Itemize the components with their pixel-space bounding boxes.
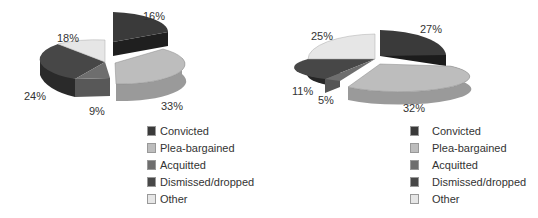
swatch-convicted [410,126,419,136]
swatch-acquitted [147,160,156,170]
legend-label: Plea-bargained [432,142,507,154]
label-left-other: 18% [57,32,79,44]
label-left-convicted: 16% [143,10,165,22]
label-right-dismissed: 11% [292,85,313,97]
swatch-plea-bargained [147,143,156,153]
pie-chart-left: 16% 33% 9% 24% 18% [24,10,186,117]
label-left-plea-bargained: 33% [161,100,183,112]
swatch-acquitted [410,160,419,170]
legend-label: Convicted [160,125,209,137]
swatch-dismissed [410,177,419,187]
legend-item-plea-bargained: Plea-bargained [147,139,254,156]
legend-item-acquitted: Acquitted [410,156,526,173]
label-left-dismissed: 24% [24,90,46,102]
label-right-acquitted: 5% [318,94,334,106]
legend-label: Convicted [432,125,481,137]
label-right-other: 25% [311,30,333,42]
legend-item-acquitted: Acquitted [147,156,254,173]
swatch-dismissed [147,177,156,187]
legend-item-convicted: Convicted [410,122,526,139]
legend-label: Acquitted [160,159,206,171]
label-right-plea-bargained: 32% [403,102,425,114]
pie-chart-right: 27% 32% 5% 11% 25% [292,23,471,114]
legend-item-dismissed: Dismissed/dropped [410,173,526,190]
legend-label: Acquitted [432,159,478,171]
label-right-convicted: 27% [420,23,442,35]
swatch-plea-bargained [410,143,419,153]
swatch-other [147,194,156,204]
legend-item-other: Other [147,190,254,207]
legend-label: Dismissed/dropped [432,176,526,188]
legend-right: Convicted Plea-bargained Acquitted Dismi… [410,122,526,207]
swatch-convicted [147,126,156,136]
legend-item-dismissed: Dismissed/dropped [147,173,254,190]
swatch-other [410,194,419,204]
legend-item-other: Other [410,190,526,207]
legend-item-convicted: Convicted [147,122,254,139]
legend-label: Plea-bargained [160,142,235,154]
label-left-acquitted: 9% [89,105,105,117]
legend-left: Convicted Plea-bargained Acquitted Dismi… [147,122,254,207]
legend-label: Other [160,193,188,205]
legend-label: Dismissed/dropped [160,176,254,188]
legend-label: Other [432,193,460,205]
legend-item-plea-bargained: Plea-bargained [410,139,526,156]
